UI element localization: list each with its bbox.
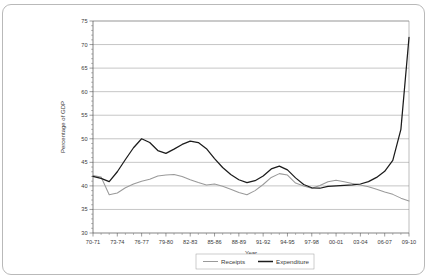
y-tick-label: 45: [81, 159, 87, 165]
x-tick-label: 70-71: [86, 239, 100, 245]
x-tick-label: 09-10: [402, 239, 416, 245]
line-chart-figure: 3035404550556065707570-7173-7476-7779-80…: [3, 5, 425, 275]
y-tick-label: 40: [81, 183, 87, 189]
x-tick-label: 97-98: [305, 239, 319, 245]
y-tick-label: 70: [81, 42, 87, 48]
series-line-receipts: [93, 174, 409, 201]
x-tick-label: 00-01: [329, 239, 343, 245]
y-tick-label: 35: [81, 206, 87, 212]
chart-canvas: 3035404550556065707570-7173-7476-7779-80…: [3, 5, 425, 275]
y-axis-title: Percentage of GDP: [60, 101, 66, 153]
x-tick-label: 06-07: [378, 239, 392, 245]
x-tick-label: 85-86: [207, 239, 221, 245]
y-tick-label: 60: [81, 89, 87, 95]
x-tick-label: 88-89: [232, 239, 246, 245]
x-tick-label: 73-74: [110, 239, 124, 245]
x-tick-label: 91-92: [256, 239, 270, 245]
y-tick-label: 75: [81, 18, 87, 24]
x-tick-label: 82-83: [183, 239, 197, 245]
y-tick-label: 30: [81, 230, 87, 236]
legend-label-expenditure: Expenditure: [276, 258, 310, 265]
x-tick-label: 94-95: [280, 239, 294, 245]
y-tick-label: 65: [81, 65, 87, 71]
x-tick-label: 03-04: [353, 239, 367, 245]
series-line-expenditure: [93, 37, 409, 188]
x-tick-label: 79-80: [159, 239, 173, 245]
y-tick-label: 50: [81, 136, 87, 142]
y-tick-label: 55: [81, 112, 87, 118]
x-tick-label: 76-77: [134, 239, 148, 245]
legend-label-receipts: Receipts: [221, 258, 245, 265]
figure-frame: 3035404550556065707570-7173-7476-7779-80…: [2, 4, 425, 275]
